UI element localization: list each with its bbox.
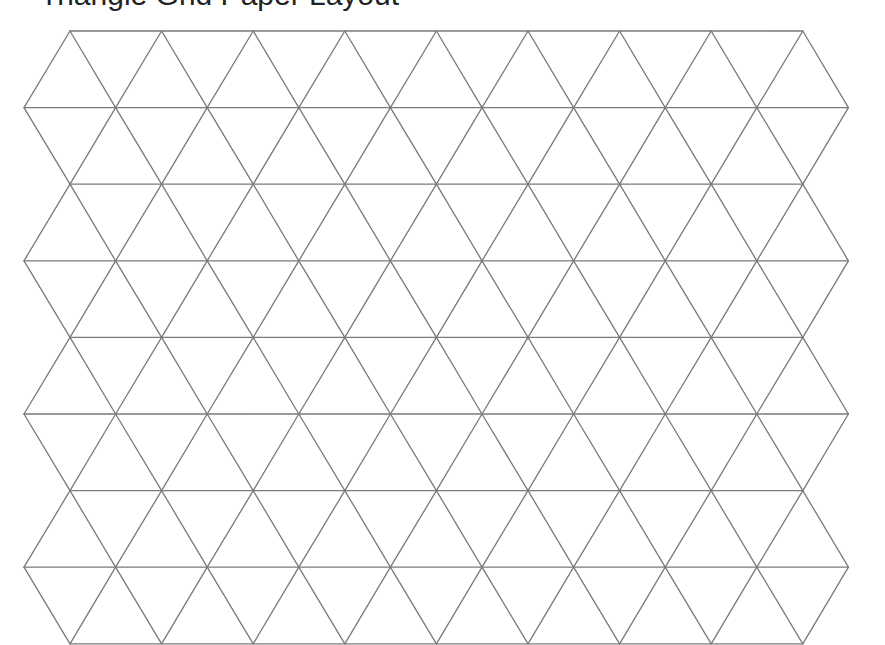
grid-line — [482, 108, 528, 185]
grid-line — [70, 184, 116, 261]
grid-line — [207, 261, 253, 338]
grid-line — [299, 261, 345, 338]
grid-line — [116, 491, 162, 568]
grid-line — [711, 108, 757, 185]
grid-line — [207, 31, 253, 108]
grid-line — [574, 261, 620, 338]
grid-line — [162, 31, 208, 108]
grid-line — [390, 337, 436, 414]
grid-line — [253, 108, 299, 185]
grid-line — [436, 261, 482, 338]
grid-line — [620, 108, 666, 185]
grid-line — [207, 491, 253, 568]
grid-line — [711, 414, 757, 491]
grid-line — [574, 184, 620, 261]
grid-line — [24, 414, 70, 491]
grid-line — [24, 184, 70, 261]
grid-line — [24, 567, 70, 644]
grid-line — [528, 31, 574, 108]
grid-line — [345, 261, 391, 338]
grid-line — [528, 491, 574, 568]
grid-line — [390, 108, 436, 185]
grid-line — [574, 567, 620, 644]
grid-line — [665, 261, 711, 338]
grid-line — [299, 31, 345, 108]
grid-line — [436, 337, 482, 414]
grid-line — [24, 31, 70, 108]
grid-line — [116, 31, 162, 108]
grid-line — [116, 414, 162, 491]
grid-line — [803, 184, 849, 261]
grid-line — [482, 414, 528, 491]
grid-line — [390, 184, 436, 261]
grid-line — [665, 184, 711, 261]
grid-line — [757, 337, 803, 414]
grid-line — [345, 31, 391, 108]
grid-line — [620, 414, 666, 491]
grid-line — [207, 108, 253, 185]
grid-line — [116, 184, 162, 261]
grid-line — [299, 108, 345, 185]
grid-line — [528, 261, 574, 338]
grid-line — [253, 567, 299, 644]
grid-line — [757, 108, 803, 185]
grid-line — [757, 184, 803, 261]
grid-line — [299, 567, 345, 644]
grid-line — [70, 337, 116, 414]
grid-line — [436, 184, 482, 261]
grid-line — [162, 567, 208, 644]
grid-line — [574, 414, 620, 491]
grid-line — [665, 567, 711, 644]
grid-line — [803, 567, 849, 644]
grid-line — [482, 491, 528, 568]
grid-line — [757, 491, 803, 568]
grid-line — [665, 337, 711, 414]
grid-line — [574, 31, 620, 108]
grid-line — [207, 184, 253, 261]
grid-line — [711, 184, 757, 261]
grid-line — [345, 567, 391, 644]
grid-line — [436, 31, 482, 108]
grid-line — [436, 491, 482, 568]
triangle-grid — [0, 0, 885, 645]
grid-line — [620, 184, 666, 261]
grid-line — [574, 491, 620, 568]
grid-line — [299, 491, 345, 568]
grid-line — [70, 261, 116, 338]
grid-line — [253, 414, 299, 491]
grid-line — [665, 31, 711, 108]
grid-line — [482, 261, 528, 338]
grid-line — [757, 31, 803, 108]
grid-line — [299, 337, 345, 414]
grid-line — [436, 108, 482, 185]
grid-line — [207, 337, 253, 414]
grid-line — [803, 261, 849, 338]
grid-line — [482, 337, 528, 414]
grid-line — [345, 414, 391, 491]
grid-line — [390, 491, 436, 568]
grid-line — [70, 108, 116, 185]
grid-line — [70, 414, 116, 491]
grid-line — [574, 108, 620, 185]
grid-line — [24, 337, 70, 414]
grid-line — [299, 414, 345, 491]
grid-line — [390, 31, 436, 108]
grid-line — [803, 108, 849, 185]
grid-line — [345, 491, 391, 568]
grid-line — [390, 567, 436, 644]
grid-line — [116, 108, 162, 185]
grid-line — [482, 184, 528, 261]
grid-line — [665, 414, 711, 491]
grid-line — [253, 261, 299, 338]
grid-line — [665, 491, 711, 568]
grid-line — [253, 491, 299, 568]
grid-line — [345, 184, 391, 261]
grid-line — [116, 337, 162, 414]
grid-line — [70, 491, 116, 568]
grid-line — [757, 261, 803, 338]
grid-line — [528, 184, 574, 261]
grid-line — [711, 567, 757, 644]
grid-line — [620, 567, 666, 644]
grid-line — [207, 567, 253, 644]
grid-line — [70, 31, 116, 108]
